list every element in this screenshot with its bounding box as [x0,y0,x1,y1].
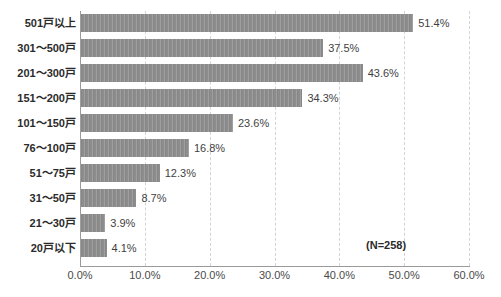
category-label: 20戸以下 [0,236,76,261]
bar [80,64,363,82]
bar [80,114,233,132]
bar-value-label: 12.3% [165,164,196,182]
bar-value-label: 37.5% [328,39,359,57]
category-label: 301～500戸 [0,36,76,61]
bar [80,14,413,32]
gridline-60.0 [469,11,470,266]
bar [80,89,302,107]
x-tick-label: 10.0% [129,269,160,281]
x-tick-label: 20.0% [194,269,225,281]
bar-value-label: 16.8% [194,139,225,157]
category-label: 501戸以上 [0,11,76,36]
plot-area: 51.4%37.5%43.6%34.3%23.6%16.8%12.3%8.7%3… [80,11,469,266]
x-tick-label: 50.0% [389,269,420,281]
bar [80,39,323,57]
category-label: 76～100戸 [0,136,76,161]
category-label: 31～50戸 [0,186,76,211]
bar [80,139,189,157]
bar-row: 34.3% [80,86,469,111]
bar-value-label: 34.3% [307,89,338,107]
bar-chart: 501戸以上301～500戸201～300戸151～200戸101～150戸76… [0,0,501,297]
bar-value-label: 51.4% [418,14,449,32]
x-axis-tick-labels: 0.0%10.0%20.0%30.0%40.0%50.0%60.0% [80,269,469,289]
bar-row: 3.9% [80,211,469,236]
bar [80,214,105,232]
bar-value-label: 43.6% [368,64,399,82]
x-tick-label: 40.0% [324,269,355,281]
bar-value-label: 4.1% [112,239,137,257]
bar-row: 12.3% [80,161,469,186]
bar-row: 4.1% [80,236,469,261]
x-tick-label: 30.0% [259,269,290,281]
category-label: 151～200戸 [0,86,76,111]
category-label: 51～75戸 [0,161,76,186]
category-label: 21～30戸 [0,211,76,236]
bar-row: 16.8% [80,136,469,161]
bar-value-label: 23.6% [238,114,269,132]
bar-row: 51.4% [80,11,469,36]
bar-row: 43.6% [80,61,469,86]
x-axis-line [80,266,470,267]
sample-size-annotation: (N=258) [366,239,406,251]
bar-row: 37.5% [80,36,469,61]
bar [80,239,107,257]
x-tick-label: 0.0% [67,269,92,281]
bar [80,189,136,207]
bar [80,164,160,182]
category-label: 201～300戸 [0,61,76,86]
bar-value-label: 3.9% [110,214,135,232]
x-tick-label: 60.0% [453,269,484,281]
bar-row: 8.7% [80,186,469,211]
bar-row: 23.6% [80,111,469,136]
category-label: 101～150戸 [0,111,76,136]
y-axis-category-labels: 501戸以上301～500戸201～300戸151～200戸101～150戸76… [0,11,76,266]
bar-value-label: 8.7% [141,189,166,207]
